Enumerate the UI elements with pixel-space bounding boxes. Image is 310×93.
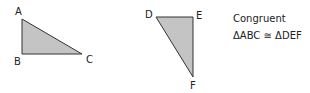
vertex-label-e: E — [196, 10, 202, 21]
triangle-def — [156, 17, 193, 77]
vertex-label-a: A — [15, 6, 22, 17]
vertex-label-d: D — [145, 9, 153, 20]
vertex-label-f: F — [190, 80, 196, 91]
vertex-label-c: C — [86, 54, 93, 65]
triangle-abc — [22, 19, 82, 54]
caption-title: Congruent — [233, 13, 286, 24]
congruence-statement: ΔABC ≅ ΔDEF — [233, 30, 302, 41]
vertex-label-b: B — [14, 56, 21, 67]
